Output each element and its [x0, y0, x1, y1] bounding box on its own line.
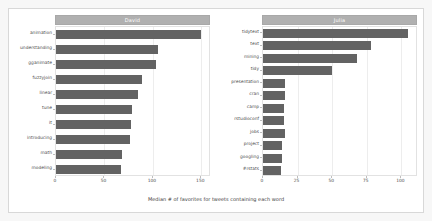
table-row [56, 90, 138, 99]
table-row [56, 135, 130, 144]
table-row [56, 120, 131, 129]
y-axis-tick-label: introducing [27, 136, 52, 140]
facet-panel-julia: Julia tidytexttextminingtidypresentation… [216, 15, 423, 193]
bar [56, 75, 142, 84]
x-axis-julia: 0255075100 [262, 176, 417, 190]
y-axis-tick-label: googling [240, 155, 259, 159]
x-axis-tick-label: 150 [196, 179, 204, 183]
y-axis-tick-label: cran [249, 92, 259, 96]
plot-device-frame: David animationunderstandinggganimatefuz… [8, 8, 424, 213]
table-row [56, 150, 122, 159]
bar [56, 45, 158, 54]
bar [263, 79, 285, 88]
table-row [56, 165, 121, 174]
table-row [263, 141, 282, 150]
y-axis-tick-label: project [244, 142, 259, 146]
table-row [263, 154, 282, 163]
y-axis-tick-label: it [49, 121, 52, 125]
x-axis-tick-label: 0 [54, 179, 57, 183]
x-axis-tick-label: 0 [261, 179, 264, 183]
facet-panel-david: David animationunderstandinggganimatefuz… [9, 15, 216, 193]
bar [263, 91, 285, 100]
bar-series-julia [263, 27, 416, 175]
y-axis-tick-label: understanding [20, 46, 52, 50]
table-row [56, 105, 132, 114]
bar [56, 150, 122, 159]
table-row [263, 54, 357, 63]
y-axis-tick-label: tidytext [242, 30, 259, 34]
bar [56, 120, 131, 129]
table-row [263, 91, 285, 100]
y-axis-tick-label: mining [244, 55, 259, 59]
y-axis-tick-label: jobs [250, 130, 259, 134]
y-axis-tick-label: rstudioconf [234, 117, 259, 121]
y-axis-tick-label: text [250, 42, 259, 46]
bar [263, 166, 281, 175]
bar [263, 54, 357, 63]
table-row [263, 104, 284, 113]
y-axis-tick-label: animation [30, 31, 52, 35]
bar [263, 154, 282, 163]
table-row [56, 60, 156, 69]
y-axis-tick-label: fuzzyjoin [33, 76, 52, 80]
y-axis-tick-label: linear [40, 91, 52, 95]
facet-grid: David animationunderstandinggganimatefuz… [9, 15, 423, 193]
x-axis-tick-label: 75 [363, 179, 369, 183]
bar [56, 30, 201, 39]
x-axis-tick-label: 100 [396, 179, 404, 183]
table-row [263, 116, 284, 125]
bar [263, 116, 284, 125]
table-row [263, 129, 285, 138]
y-axis-tick-label: modeling [32, 166, 52, 170]
bar [56, 90, 138, 99]
x-axis-title: Median # of favorites for tweets contain… [9, 197, 423, 202]
facet-strip-david: David [55, 15, 210, 25]
y-axis-tick-label: tune [42, 106, 52, 110]
plot-area: David animationunderstandinggganimatefuz… [9, 9, 423, 212]
x-axis-tick-label: 50 [101, 179, 107, 183]
bar [263, 29, 408, 38]
bar [56, 135, 130, 144]
x-axis-tick-label: 50 [328, 179, 334, 183]
bar-series-david [56, 27, 209, 175]
y-axis-labels-julia: tidytexttextminingtidypresentationcranca… [216, 26, 262, 176]
y-axis-labels-david: animationunderstandinggganimatefuzzyjoin… [9, 26, 55, 176]
table-row [56, 75, 142, 84]
table-row [263, 29, 408, 38]
table-row [263, 66, 332, 75]
table-row [56, 30, 201, 39]
y-axis-tick-label: gganimate [28, 61, 52, 65]
bar [263, 129, 285, 138]
panel-region-julia [262, 26, 417, 176]
table-row [56, 45, 158, 54]
facet-strip-julia: Julia [262, 15, 417, 25]
bar [56, 105, 132, 114]
bar [56, 60, 156, 69]
facet-strip-label: David [125, 18, 140, 23]
y-axis-tick-label: tidy [251, 67, 259, 71]
y-axis-tick-label: #rstats [243, 167, 259, 171]
x-axis-tick-label: 25 [294, 179, 300, 183]
bar [263, 41, 371, 50]
facet-strip-label: Julia [334, 18, 346, 23]
y-axis-tick-label: camp [247, 105, 259, 109]
chart-screenshot: David animationunderstandinggganimatefuz… [0, 0, 432, 221]
table-row [263, 166, 281, 175]
panel-region-david [55, 26, 210, 176]
table-row [263, 41, 371, 50]
bar [263, 104, 284, 113]
bar [56, 165, 121, 174]
table-row [263, 79, 285, 88]
bar [263, 66, 332, 75]
bar [263, 141, 282, 150]
y-axis-tick-label: presentation [231, 80, 259, 84]
x-axis-tick-label: 100 [148, 179, 156, 183]
x-axis-david: 050100150 [55, 176, 210, 190]
y-axis-tick-label: math [41, 151, 52, 155]
